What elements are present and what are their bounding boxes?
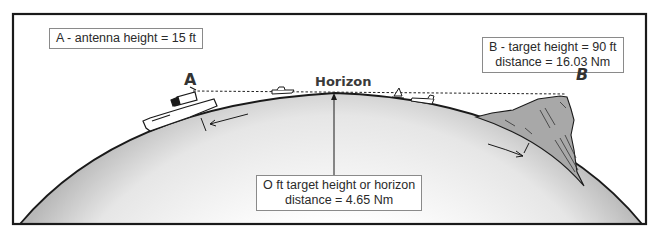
horizon-label: Horizon <box>315 74 371 89</box>
horizon-note-text: O ft target height or horizon <box>263 178 415 193</box>
horizon-distance-label: O ft target height or horizon distance =… <box>256 175 422 211</box>
horizon-distance-text: distance = 4.65 Nm <box>263 193 415 208</box>
antenna-height-label: A - antenna height = 15 ft <box>49 28 203 49</box>
point-b-label: B <box>576 65 588 84</box>
target-height-label: B - target height = 90 ft distance = 16.… <box>482 37 624 73</box>
target-height-text: B - target height = 90 ft <box>489 40 617 55</box>
boat-icon <box>272 87 294 94</box>
target-distance-text: distance = 16.03 Nm <box>489 55 617 70</box>
line-of-sight <box>193 91 566 94</box>
point-a-label: A <box>184 70 196 89</box>
